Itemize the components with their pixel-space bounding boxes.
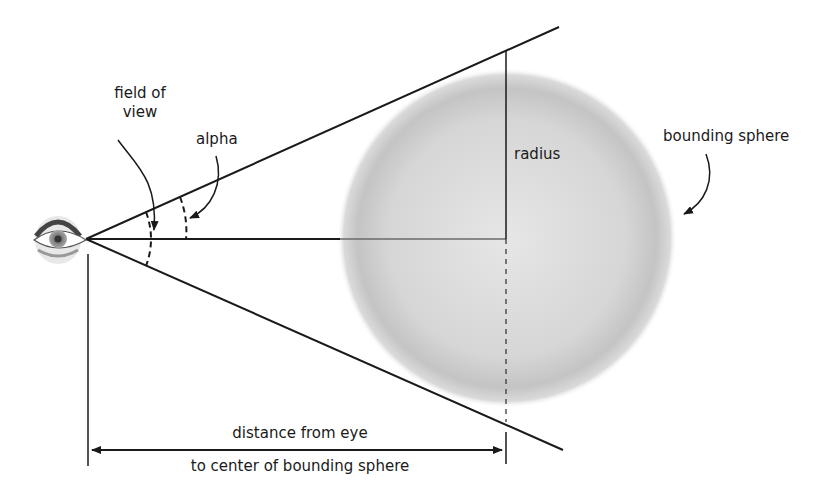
bounding-sphere-pointer bbox=[684, 154, 710, 214]
field-of-view-label-line1: field of bbox=[100, 84, 180, 103]
distance-label-line2: to center of bounding sphere bbox=[150, 457, 450, 476]
bounding-sphere-label: bounding sphere bbox=[663, 127, 789, 146]
radius-label: radius bbox=[514, 145, 560, 164]
alpha-arc bbox=[180, 197, 186, 239]
eye-icon bbox=[34, 216, 86, 264]
alpha-label: alpha bbox=[196, 130, 238, 149]
bounding-sphere bbox=[337, 68, 677, 408]
distance-label-line1: distance from eye bbox=[180, 424, 420, 443]
field-of-view-label-line2: view bbox=[100, 103, 180, 122]
field-of-view-label: field of view bbox=[100, 84, 180, 122]
